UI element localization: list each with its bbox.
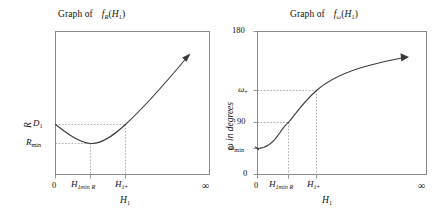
left-ytick-label-D1: D1	[33, 119, 43, 128]
panel-graph-f-R: Graph of fR(H1) R	[0, 0, 217, 221]
right-ytick-label-90: 90	[237, 117, 246, 126]
right-xtick-label-infinity: ∞	[418, 181, 425, 191]
right-xtick-label-0: 0	[254, 181, 258, 190]
left-chart-canvas	[0, 0, 217, 221]
panel-graph-f-omega: Graph of fω(H1)	[217, 0, 434, 221]
left-curve-fR	[56, 59, 187, 144]
figure-two-graphs: Graph of fR(H1) R	[0, 0, 434, 221]
left-xtick-label-infinity: ∞	[202, 181, 209, 191]
left-xtick-label-0: 0	[52, 181, 56, 190]
right-plot-frame	[258, 32, 427, 175]
left-xtick-label-H1plus: H1+	[115, 180, 128, 189]
right-curve-fomega	[258, 58, 404, 149]
left-ytick-label-Rmin: Rmin	[26, 138, 41, 147]
right-ytick-label-180: 180	[232, 26, 245, 35]
right-chart-canvas	[217, 0, 434, 221]
left-x-axis-title: H1	[120, 196, 130, 206]
left-xtick-label-H1minR: H1min R	[71, 180, 95, 189]
right-x-axis-title: H1	[322, 196, 332, 206]
right-ytick-label-omega-min: ωmin	[228, 143, 244, 152]
right-xtick-label-H1plus: H1+	[307, 180, 320, 189]
left-plot-frame	[56, 32, 210, 175]
right-curve-arrowhead	[401, 53, 410, 61]
right-ytick-label-omega-plus: ω+	[238, 85, 248, 94]
right-ytick-label-0: 0	[243, 169, 247, 178]
left-curve-arrowhead	[182, 54, 190, 62]
right-xtick-label-H1minR: H1min R	[269, 180, 293, 189]
